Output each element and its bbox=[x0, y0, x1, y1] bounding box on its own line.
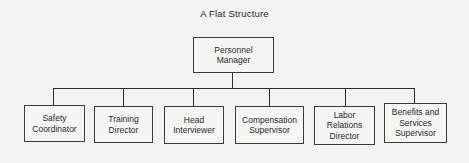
node-label: Benefits and Services Supervisor bbox=[392, 107, 439, 139]
connector-horizontal-bar bbox=[53, 88, 415, 89]
node-label: Safety Coordinator bbox=[32, 113, 76, 134]
node-label: Personnel Manager bbox=[214, 45, 252, 66]
connector-child-6 bbox=[414, 88, 415, 103]
node-label: Head Interviewer bbox=[173, 115, 215, 136]
node-training-director: Training Director bbox=[94, 106, 153, 143]
connector-root-down bbox=[232, 73, 233, 88]
connector-child-3 bbox=[193, 88, 194, 106]
node-label: Training Director bbox=[108, 114, 138, 135]
node-benefits-services-supervisor: Benefits and Services Supervisor bbox=[384, 103, 447, 143]
connector-child-5 bbox=[345, 88, 346, 106]
connector-child-4 bbox=[269, 88, 270, 106]
node-safety-coordinator: Safety Coordinator bbox=[24, 105, 85, 142]
diagram-title: A Flat Structure bbox=[0, 8, 469, 19]
node-head-interviewer: Head Interviewer bbox=[164, 106, 224, 144]
connector-child-2 bbox=[123, 88, 124, 106]
node-personnel-manager: Personnel Manager bbox=[193, 37, 274, 73]
node-compensation-supervisor: Compensation Supervisor bbox=[235, 106, 304, 144]
connector-child-1 bbox=[53, 88, 54, 105]
node-label: Compensation Supervisor bbox=[242, 115, 297, 136]
node-label: Labor Relations Director bbox=[327, 110, 362, 142]
node-labor-relations-director: Labor Relations Director bbox=[314, 106, 375, 145]
